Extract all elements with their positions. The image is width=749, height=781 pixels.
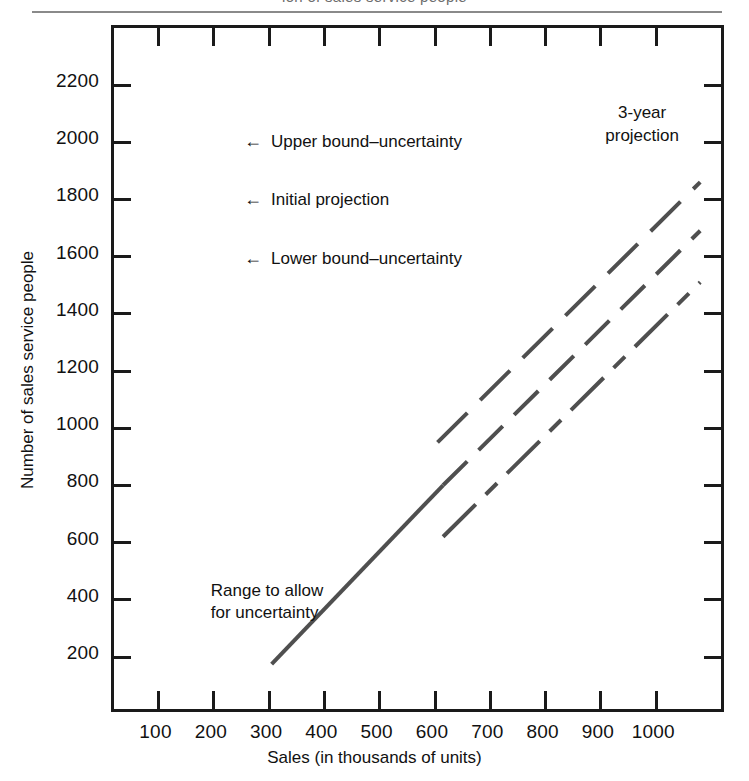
range-annotation-line1: Range to allow [211, 580, 323, 602]
figure-page: ion of sales service people 200400600800… [0, 0, 749, 781]
y-axis-tick-label: 1400 [35, 299, 99, 321]
three-year-projection-annotation-line2: projection [580, 125, 704, 147]
series-line-initial-projection [443, 231, 700, 486]
series-line-lower-bound-uncertainty [443, 282, 700, 537]
initial-projection-annotation-label: Initial projection [271, 190, 389, 209]
x-axis-tick-label: 1000 [618, 721, 688, 743]
lower-bound-annotation-label: Lower bound–uncertainty [271, 249, 462, 268]
upper-bound-annotation-label: Upper bound–uncertainty [271, 132, 462, 151]
y-axis-tick-label: 800 [35, 470, 99, 492]
lower-bound-annotation: ←Lower bound–uncertainty [244, 247, 462, 270]
left-arrow-icon: ← [244, 130, 262, 153]
x-axis-title: Sales (in thousands of units) [0, 748, 749, 768]
left-arrow-icon: ← [244, 247, 262, 270]
y-axis-tick-label: 1600 [35, 242, 99, 264]
y-axis-tick-label: 400 [35, 585, 99, 607]
y-axis-tick-label: 200 [35, 642, 99, 664]
y-axis-tick-label: 600 [35, 528, 99, 550]
y-axis-tick-label: 2200 [35, 70, 99, 92]
three-year-projection-annotation-line1: 3-year [580, 102, 704, 124]
left-arrow-icon: ← [244, 188, 262, 211]
y-axis-title: Number of sales service people [18, 140, 38, 600]
series-line-historical-trend [272, 485, 443, 664]
y-axis-tick-label: 2000 [35, 127, 99, 149]
three-year-projection-annotation: 3-yearprojection [580, 102, 704, 146]
y-axis-tick-label: 1200 [35, 356, 99, 378]
upper-bound-annotation: ←Upper bound–uncertainty [244, 130, 462, 153]
range-annotation-line2: for uncertainty [211, 602, 323, 624]
range-annotation: Range to allowfor uncertainty [211, 580, 323, 624]
series-line-upper-bound-uncertainty [438, 182, 701, 442]
y-axis-tick-label: 1800 [35, 184, 99, 206]
initial-projection-annotation: ←Initial projection [244, 188, 389, 211]
y-axis-tick-label: 1000 [35, 413, 99, 435]
